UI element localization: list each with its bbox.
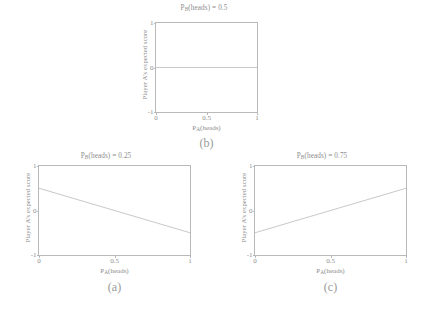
panel-b-ytick-neg1: -1 xyxy=(148,109,154,116)
panel-c-xtick-05: 0.5 xyxy=(326,258,335,265)
panel-b-xlabel-tail: (heads) xyxy=(200,124,221,132)
panel-a-caption: (a) xyxy=(38,280,191,295)
panel-c-plot-area: 1 0 -1 0 0.5 1 xyxy=(254,165,407,256)
panel-c-ytick-1: 1 xyxy=(249,163,253,170)
panel-b-title: PB(heads) = 0.5 xyxy=(144,4,264,12)
panel-a-series-svg xyxy=(39,166,190,255)
panel-b-xtick-0: 0 xyxy=(154,115,158,122)
panel-a-xlabel: PA(heads) xyxy=(38,267,191,275)
panel-c-ytick-0: 0 xyxy=(249,207,253,214)
panel-a-xtick-0: 0 xyxy=(37,258,41,265)
panel-c-xlabel: PA(heads) xyxy=(254,267,407,275)
panel-c-xlabel-tail: (heads) xyxy=(324,267,345,275)
panel-c-ylabel: Player A's expected score xyxy=(240,171,247,245)
panel-a-ytick-0: 0 xyxy=(33,207,37,214)
panel-a-line xyxy=(39,188,190,233)
panel-b: PB(heads) = 0.5 1 0 -1 0 0.5 1 Player A' xyxy=(126,4,276,152)
panel-a: PB(heads) = 0.25 1 0 -1 0 0.5 1 Player A… xyxy=(8,152,198,312)
panel-a-ytick-neg1: -1 xyxy=(31,252,37,259)
panel-a-title-value: 0.25 xyxy=(118,152,131,160)
panel-a-ylabel: Player A's expected score xyxy=(24,171,31,245)
panel-c: PB(heads) = 0.75 1 0 -1 0 0.5 1 Player A… xyxy=(222,152,414,312)
panel-a-xlabel-tail: (heads) xyxy=(108,267,129,275)
panel-b-plot-area: 1 0 -1 0 0.5 1 xyxy=(155,22,258,113)
panel-b-caption: (b) xyxy=(155,136,258,151)
panel-a-ytick-1: 1 xyxy=(33,163,37,170)
panel-a-title-tail: (heads) = xyxy=(89,152,119,160)
panel-b-series-svg xyxy=(156,23,257,112)
panel-c-caption: (c) xyxy=(254,280,407,295)
panel-c-line xyxy=(255,188,406,233)
panel-c-ytick-neg1: -1 xyxy=(247,252,253,259)
panel-c-title: PB(heads) = 0.75 xyxy=(262,152,382,160)
panel-b-xtick-1: 1 xyxy=(255,115,259,122)
panel-a-xtick-1: 1 xyxy=(188,258,192,265)
panel-b-xtick-05: 0.5 xyxy=(202,115,211,122)
panel-a-xtick-05: 0.5 xyxy=(110,258,119,265)
figure-three-panel-expected-score: PB(heads) = 0.5 1 0 -1 0 0.5 1 Player A' xyxy=(0,0,422,313)
panel-b-ytick-0: 0 xyxy=(150,64,154,71)
panel-c-xtick-0: 0 xyxy=(253,258,257,265)
panel-b-title-tail: (heads) = xyxy=(188,4,218,12)
panel-b-xlabel: PA(heads) xyxy=(155,124,258,132)
panel-a-title: PB(heads) = 0.25 xyxy=(46,152,166,160)
panel-c-title-tail: (heads) = xyxy=(305,152,335,160)
panel-c-xtick-1: 1 xyxy=(404,258,408,265)
panel-c-series-svg xyxy=(255,166,406,255)
panel-a-plot-area: 1 0 -1 0 0.5 1 xyxy=(38,165,191,256)
panel-b-ylabel: Player A's expected score xyxy=(141,28,148,102)
panel-c-title-value: 0.75 xyxy=(334,152,347,160)
panel-b-ytick-1: 1 xyxy=(150,20,154,27)
panel-b-title-value: 0.5 xyxy=(218,4,227,12)
